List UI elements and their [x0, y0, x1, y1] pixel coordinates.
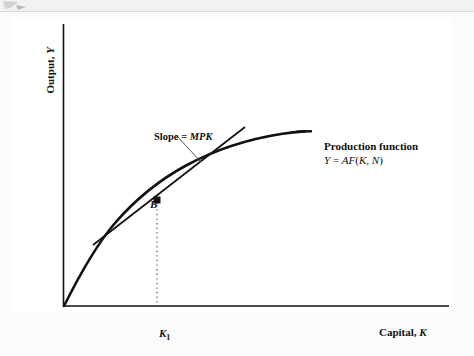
slope-annotation: Slope = MPK	[154, 131, 213, 143]
y-axis-label: Output, Y	[44, 25, 57, 115]
production-function-curve	[64, 131, 305, 306]
tangent-line	[93, 127, 245, 245]
production-function-annotation: Production function Y = AF(K, N)	[324, 140, 418, 166]
figure-page: Output, Y Slope = MPK Production functio…	[0, 0, 474, 356]
page-top-rule	[0, 11, 474, 12]
figure-panel: Output, Y Slope = MPK Production functio…	[11, 18, 452, 312]
production-function-equation: Y = AF(K, N)	[324, 154, 418, 167]
x-axis-label: Capital, K	[379, 326, 427, 339]
point-b-label: B	[150, 198, 157, 211]
k1-axis-tick-label: K1	[159, 327, 170, 342]
scan-artifact-icon	[2, 0, 28, 12]
